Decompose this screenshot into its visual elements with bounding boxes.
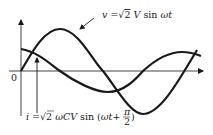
phasor-waveform-diagram: 0 v =√2 V sin ωt i =√2 ωCV sin (ωt+ π 2 …	[0, 0, 213, 135]
voltage-eq: =	[107, 9, 118, 20]
voltage-sin: sin	[140, 9, 160, 20]
voltage-equation: v =√2 V sin ωt	[102, 9, 172, 20]
origin-label: 0	[11, 72, 17, 83]
current-sin: sin (	[77, 111, 101, 122]
current-equation: i =√2 ωCV sin (ωt+	[26, 111, 120, 122]
close-paren: )	[131, 111, 135, 122]
voltage-wt: ωt	[160, 9, 172, 20]
voltage-pointer	[80, 18, 94, 29]
current-eq: =	[29, 111, 40, 122]
current-wt: ωt	[101, 111, 113, 122]
current-wCV: ωCV	[52, 111, 78, 122]
current-plus: +	[112, 111, 120, 122]
fraction-denominator: 2	[124, 116, 130, 127]
